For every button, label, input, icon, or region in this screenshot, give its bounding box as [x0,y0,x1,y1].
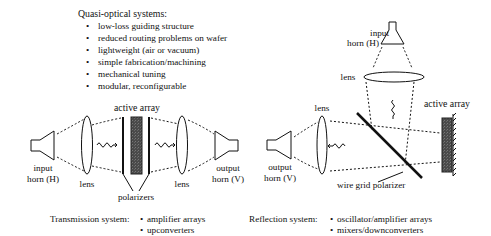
lens-label: lens [80,179,95,189]
features-list: Quasi-optical systems: • low-loss guidin… [78,8,227,91]
lens-label: lens [315,103,330,113]
transmission-caption: Transmission system: • amplifier arrays … [50,214,206,235]
bullet-icon: • [86,33,89,43]
input-horn-icon [31,131,54,160]
bullet-icon: • [86,69,89,79]
input-horn-label: input [370,28,389,38]
bullet-icon: • [140,225,143,235]
svg-text:low-loss guiding structure: low-loss guiding structure [98,21,194,31]
svg-text:oscillator/amplifier arrays: oscillator/amplifier arrays [337,214,433,224]
caption-label: Transmission system: [50,214,130,224]
feature-item: • lightweight (air or vacuum) [86,45,199,55]
quasi-optical-diagram: Quasi-optical systems: • low-loss guidin… [0,0,491,236]
input-horn-label: input [34,163,53,173]
output-horn-icon [267,131,291,159]
feature-item: • modular, reconfigurable [86,81,186,91]
feature-item: • mechanical tuning [86,69,166,79]
lens-label: lens [341,72,356,82]
input-horn-label: horn (H) [347,38,379,48]
svg-text:reduced routing problems on wa: reduced routing problems on wafer [98,33,227,43]
svg-text:amplifier arrays: amplifier arrays [147,214,206,224]
lens-icon [317,116,327,174]
wave-icon [155,143,175,147]
caption-label: Reflection system: [249,214,318,224]
svg-text:modular, reconfigurable: modular, reconfigurable [98,81,186,91]
bullet-icon: • [86,45,89,55]
svg-text:upconverters: upconverters [147,225,195,235]
active-array-label: active array [424,98,470,109]
output-horn-label: horn (V) [264,173,296,183]
active-array-icon [131,117,142,174]
wave-icon [97,143,117,147]
lens-icon [177,116,188,174]
svg-text:lightweight (air or vacuum): lightweight (air or vacuum) [98,45,199,55]
bullet-icon: • [140,214,143,224]
bullet-icon: • [330,214,333,224]
polarizers-label: polarizers [118,192,155,202]
svg-text:simple fabrication/machining: simple fabrication/machining [98,57,206,67]
output-horn-icon [215,131,238,160]
output-horn-label: horn (V) [212,174,244,184]
lens-icon [82,116,93,174]
bullet-icon: • [330,225,333,235]
bullet-icon: • [86,81,89,91]
wave-icon [392,100,395,119]
lens-icon [364,72,424,82]
output-horn-label: output [268,162,292,172]
wave-icon [328,144,345,148]
bullet-icon: • [86,57,89,67]
transmission-diagram [31,116,238,191]
active-array-icon [442,118,452,172]
input-horn-label: horn (H) [27,174,59,184]
wire-grid-polarizer-label: wire grid polarizer [337,180,405,190]
bullet-icon: • [86,21,89,31]
lens-label: lens [175,179,190,189]
feature-item: • low-loss guiding structure [86,21,194,31]
reflection-caption: Reflection system: • oscillator/amplifie… [249,214,433,235]
output-horn-label: output [216,163,240,173]
features-title: Quasi-optical systems: [78,8,167,19]
svg-text:mechanical tuning: mechanical tuning [98,69,166,79]
feature-item: • simple fabrication/machining [86,57,206,67]
feature-item: • reduced routing problems on wafer [86,33,227,43]
svg-text:mixers/downconverters: mixers/downconverters [337,225,424,235]
reflection-labels: input horn (H) lens lens active array ou… [264,28,470,190]
active-array-label: active array [114,102,160,113]
